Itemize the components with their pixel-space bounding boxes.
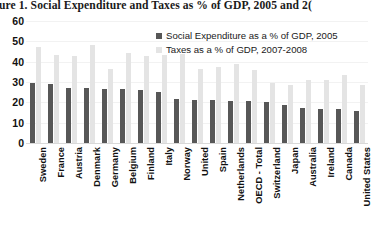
- bar: [282, 105, 287, 143]
- bar: [198, 69, 203, 143]
- bar: [246, 101, 251, 143]
- bar: [138, 90, 143, 143]
- x-label-italy: Italy: [152, 145, 170, 229]
- bar: [192, 100, 197, 143]
- bar: [120, 89, 125, 143]
- x-axis-line: [26, 143, 368, 144]
- bar: [228, 101, 233, 143]
- legend-swatch-icon: [156, 33, 162, 39]
- x-label-finland: Finland: [134, 145, 152, 229]
- bar: [300, 108, 305, 143]
- bar-group: [44, 21, 62, 143]
- y-tick-10: 10: [2, 118, 24, 128]
- bar: [264, 102, 269, 143]
- x-label-france: France: [44, 145, 62, 229]
- bar: [48, 84, 53, 143]
- bar-group: [116, 21, 134, 143]
- bar: [306, 80, 311, 143]
- bar: [342, 75, 347, 143]
- x-label-united-states: United States: [350, 145, 368, 229]
- bar-chart: 6050403020100 SwedenFranceAustriaDenmark…: [0, 14, 368, 229]
- bar: [126, 53, 131, 143]
- bar: [324, 80, 329, 143]
- bar: [210, 100, 215, 143]
- bar: [162, 55, 167, 143]
- y-tick-20: 20: [2, 97, 24, 107]
- y-tick-50: 50: [2, 36, 24, 46]
- y-tick-60: 60: [2, 16, 24, 26]
- chart-legend: Social Expenditure as a % of GDP, 2005Ta…: [156, 29, 366, 57]
- bar: [84, 88, 89, 143]
- y-tick-30: 30: [2, 77, 24, 87]
- bar: [72, 56, 77, 143]
- bar: [354, 111, 359, 143]
- x-label-switzerland: Switzerland: [260, 145, 278, 229]
- bar: [54, 55, 59, 143]
- x-label-text: United States: [363, 147, 372, 206]
- bar: [90, 45, 95, 143]
- y-tick-40: 40: [2, 57, 24, 67]
- bar: [234, 64, 239, 144]
- y-axis: 6050403020100: [0, 14, 24, 144]
- bar: [108, 69, 113, 143]
- x-label-spain: Spain: [206, 145, 224, 229]
- bar-group: [134, 21, 152, 143]
- y-tick-0: 0: [2, 138, 24, 148]
- x-label-australia: Australia: [296, 145, 314, 229]
- legend-item: Social Expenditure as a % of GDP, 2005: [156, 29, 366, 42]
- bar: [30, 83, 35, 143]
- bar: [174, 99, 179, 143]
- bar: [360, 85, 365, 143]
- x-label-oecd-total: OECD - Total: [242, 145, 260, 229]
- legend-label: Social Expenditure as a % of GDP, 2005: [166, 30, 338, 41]
- bar: [216, 67, 221, 143]
- x-label-denmark: Denmark: [80, 145, 98, 229]
- x-label-canada: Canada: [332, 145, 350, 229]
- bar-group: [26, 21, 44, 143]
- x-label-japan: Japan: [278, 145, 296, 229]
- bar: [66, 88, 71, 143]
- x-label-austria: Austria: [62, 145, 80, 229]
- bar: [270, 83, 275, 143]
- bar: [252, 70, 257, 143]
- x-label-ireland: Ireland: [314, 145, 332, 229]
- bar: [102, 89, 107, 143]
- legend-label: Taxes as a % of GDP, 2007-2008: [166, 44, 307, 55]
- x-label-germany: Germany: [98, 145, 116, 229]
- x-label-belgium: Belgium: [116, 145, 134, 229]
- legend-swatch-icon: [156, 47, 162, 53]
- figure-title: gure 1. Social Expenditure and Taxes as …: [0, 0, 375, 13]
- x-label-netherlands: Netherlands: [224, 145, 242, 229]
- bar: [180, 54, 185, 143]
- bar: [288, 85, 293, 143]
- x-label-norway: Norway: [170, 145, 188, 229]
- bar: [318, 109, 323, 143]
- bar-group: [98, 21, 116, 143]
- x-label-united: United: [188, 145, 206, 229]
- bar-group: [80, 21, 98, 143]
- bar: [36, 47, 41, 143]
- bar: [336, 109, 341, 143]
- x-label-sweden: Sweden: [26, 145, 44, 229]
- bar-group: [62, 21, 80, 143]
- bar: [144, 56, 149, 143]
- x-axis-labels: SwedenFranceAustriaDenmarkGermanyBelgium…: [26, 145, 368, 229]
- bar: [156, 92, 161, 143]
- legend-item: Taxes as a % of GDP, 2007-2008: [156, 43, 366, 56]
